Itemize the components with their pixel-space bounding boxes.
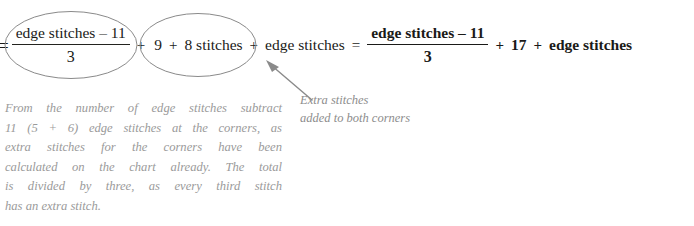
constant-seventeen: 17 bbox=[511, 37, 527, 53]
left-fraction: edge stitches – 11 3 bbox=[12, 25, 130, 65]
extra-group-inner: 9 + 8 stitches bbox=[154, 37, 242, 53]
plus-operator-2: + bbox=[243, 38, 265, 53]
extra-note-line: added to both corners bbox=[300, 110, 480, 128]
extra-group-first-value: 9 bbox=[154, 37, 162, 53]
plus-operator-3: + bbox=[488, 38, 511, 53]
figure-root: = edge stitches – 11 3 + bbox=[0, 0, 694, 226]
left-fraction-denominator: 3 bbox=[67, 45, 75, 65]
right-edge-stitches-term: edge stitches bbox=[549, 37, 632, 53]
circled-left-fraction: edge stitches – 11 3 bbox=[12, 25, 130, 65]
left-fraction-numerator: edge stitches – 11 bbox=[12, 25, 130, 44]
right-fraction-numerator: edge stitches – 11 bbox=[367, 25, 488, 44]
extra-group-plus: + bbox=[162, 38, 184, 53]
extra-stitches-note: Extra stitches added to both corners bbox=[300, 92, 480, 128]
edge-stitches-term: edge stitches bbox=[265, 37, 345, 53]
right-fraction-denominator: 3 bbox=[424, 45, 432, 65]
caption-line: From the number of edge stitches subtrac… bbox=[5, 99, 282, 119]
equation-row: = edge stitches – 11 3 + bbox=[0, 14, 694, 76]
caption-line: extra stitches for the corners have been bbox=[5, 138, 282, 158]
caption-line: 11 (5 + 6) edge stitches at the corners,… bbox=[5, 119, 282, 139]
caption-line: is divided by three, as every third stit… bbox=[5, 177, 282, 197]
middle-equals-sign: = bbox=[345, 38, 367, 53]
circled-extra-stitches-group: 9 + 8 stitches bbox=[154, 37, 242, 53]
extra-group-second-value: 8 stitches bbox=[184, 37, 242, 53]
extra-note-line: Extra stitches bbox=[300, 92, 480, 110]
caption-line: has an extra stitch. bbox=[5, 197, 282, 217]
caption-line: calculated on the chart already. The tot… bbox=[5, 158, 282, 178]
plus-operator-1: + bbox=[130, 38, 152, 53]
plus-operator-4: + bbox=[526, 38, 549, 53]
leading-equals-sign: = bbox=[0, 36, 9, 55]
left-fraction-inner: edge stitches – 11 3 bbox=[12, 25, 130, 65]
right-fraction: edge stitches – 11 3 bbox=[367, 25, 488, 65]
explanatory-caption: From the number of edge stitches subtrac… bbox=[5, 99, 282, 216]
